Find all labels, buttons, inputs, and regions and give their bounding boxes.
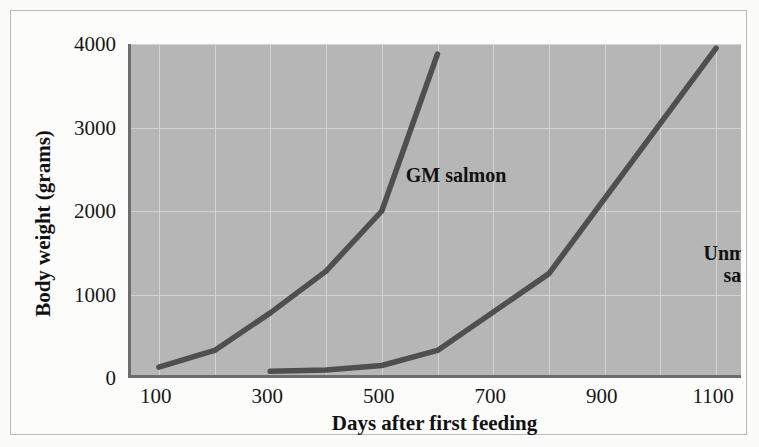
figure-frame: Body weight (grams) GM salmon Unmodified…: [10, 10, 747, 435]
x-tick-label: 700: [445, 386, 535, 407]
x-axis-label: Days after first feeding: [128, 411, 741, 436]
y-tick-label: 3000: [6, 118, 116, 139]
series-label-gm-salmon: GM salmon: [359, 164, 553, 186]
x-tick-label: 500: [334, 386, 424, 407]
series-line: [159, 54, 438, 367]
y-tick-label: 1000: [6, 285, 116, 306]
x-tick-label: 1100: [668, 386, 758, 407]
series-line: [270, 48, 716, 371]
plot-area: GM salmon Unmodified salmon: [128, 44, 741, 378]
figure-container: Body weight (grams) GM salmon Unmodified…: [0, 0, 759, 447]
y-tick-label: 0: [6, 368, 116, 389]
series-lines: [131, 44, 741, 378]
y-tick-label: 2000: [6, 201, 116, 222]
x-tick-label: 900: [557, 386, 647, 407]
series-label-unmodified-salmon: Unmodified salmon: [661, 242, 741, 287]
y-tick-label: 4000: [6, 34, 116, 55]
x-tick-label: 300: [222, 386, 312, 407]
x-tick-label: 100: [111, 386, 201, 407]
